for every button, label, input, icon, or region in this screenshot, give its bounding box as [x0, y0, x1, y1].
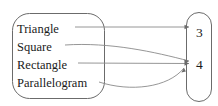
codomain-item-3: 3: [196, 26, 203, 40]
domain-item-parallelogram: Parallelogram: [17, 77, 87, 90]
connector-square-to-4: [65, 44, 189, 61]
connector-rectangle-to-4: [78, 63, 189, 64]
domain-item-triangle: Triangle: [17, 23, 59, 36]
connector-parallelogram-to-4: [99, 68, 184, 87]
domain-item-square: Square: [17, 41, 52, 54]
domain-item-rectangle: Rectangle: [17, 59, 67, 72]
mapping-diagram: Triangle Square Rectangle Parallelogram …: [0, 0, 218, 106]
codomain-item-4: 4: [196, 58, 203, 72]
